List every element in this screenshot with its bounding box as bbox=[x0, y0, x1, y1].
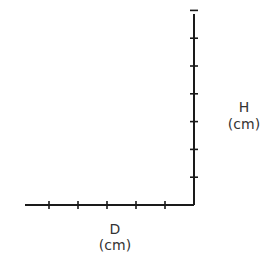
x-axis-label: D bbox=[110, 221, 121, 237]
axes-diagram: D (cm) H (cm) bbox=[0, 0, 270, 273]
y-axis-unit: (cm) bbox=[228, 116, 260, 132]
x-axis-unit: (cm) bbox=[99, 237, 131, 253]
y-axis-label: H bbox=[239, 99, 250, 115]
